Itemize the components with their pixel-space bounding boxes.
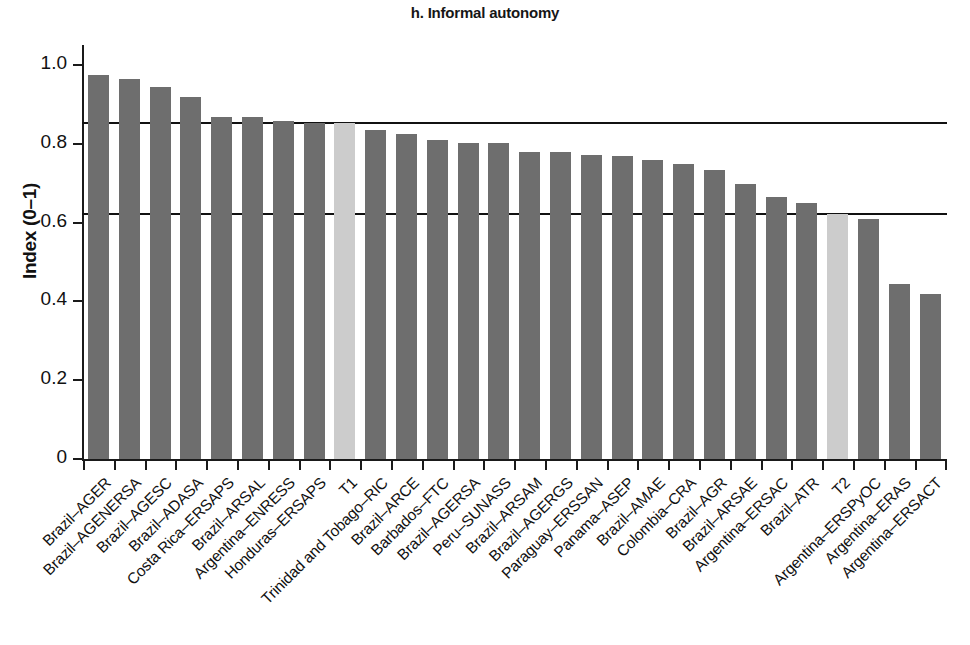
bar (704, 170, 725, 459)
bar (581, 155, 602, 459)
y-tick-label: 1.0 (7, 52, 67, 74)
y-tick-label: 0.2 (7, 367, 67, 389)
bar (519, 152, 540, 459)
bar (365, 130, 386, 459)
x-tick-mark (175, 461, 177, 470)
x-tick-mark (607, 461, 609, 470)
x-tick-mark (884, 461, 886, 470)
bar (304, 123, 325, 459)
bar (211, 117, 232, 459)
bar (88, 75, 109, 459)
x-tick-mark (915, 461, 917, 470)
bar (150, 87, 171, 459)
bar (673, 164, 694, 459)
bar (796, 203, 817, 459)
x-tick-mark (206, 461, 208, 470)
y-tick-label: 0.8 (7, 131, 67, 153)
y-tick-label: 0.4 (7, 288, 67, 310)
bar (550, 152, 571, 459)
bar (889, 284, 910, 459)
bar-chart-figure: h. Informal autonomy Index (0–1) 00.20.4… (0, 0, 970, 645)
x-tick-mark (945, 461, 947, 470)
bar (273, 121, 294, 459)
bar (920, 294, 941, 459)
x-tick-mark (699, 461, 701, 470)
x-tick-mark (145, 461, 147, 470)
x-tick-mark (114, 461, 116, 470)
x-tick-mark (299, 461, 301, 470)
bar (612, 156, 633, 459)
y-tick-mark (73, 222, 83, 224)
y-tick-label: 0.6 (7, 210, 67, 232)
bar (858, 219, 879, 459)
bar (242, 117, 263, 459)
bar (396, 134, 417, 459)
x-tick-mark (545, 461, 547, 470)
x-tick-mark (791, 461, 793, 470)
bar (334, 123, 355, 459)
bar (458, 143, 479, 459)
x-tick-mark (83, 461, 85, 470)
x-tick-mark (422, 461, 424, 470)
x-tick-mark (391, 461, 393, 470)
x-tick-mark (637, 461, 639, 470)
y-tick-mark (73, 300, 83, 302)
x-tick-mark (514, 461, 516, 470)
bar (827, 214, 848, 459)
bar (180, 97, 201, 459)
bar (642, 160, 663, 459)
x-tick-mark (576, 461, 578, 470)
y-tick-label: 0 (7, 446, 67, 468)
x-tick-mark (453, 461, 455, 470)
x-tick-mark (761, 461, 763, 470)
x-tick-mark (668, 461, 670, 470)
bar (735, 184, 756, 459)
x-tick-mark (730, 461, 732, 470)
x-tick-mark (237, 461, 239, 470)
x-tick-mark (360, 461, 362, 470)
y-tick-mark (73, 143, 83, 145)
x-tick-mark (822, 461, 824, 470)
bar (766, 197, 787, 459)
x-tick-mark (483, 461, 485, 470)
bar (488, 143, 509, 459)
chart-title: h. Informal autonomy (0, 4, 970, 21)
bar (119, 79, 140, 459)
bar (427, 140, 448, 459)
x-tick-mark (268, 461, 270, 470)
y-tick-mark (73, 379, 83, 381)
plot-area (83, 45, 947, 459)
x-tick-mark (329, 461, 331, 470)
y-tick-mark (73, 64, 83, 66)
x-tick-mark (853, 461, 855, 470)
y-tick-mark (73, 458, 83, 460)
